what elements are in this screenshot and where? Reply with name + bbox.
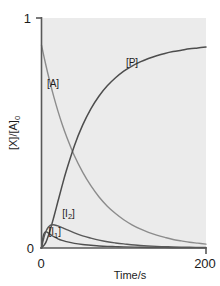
y-tick-label-max: 1 <box>24 11 31 26</box>
chart-svg: 1 0 0 200 Time/s [X]/[A]0 [A][P][I2][I1] <box>0 0 220 286</box>
y-axis-title-subscript: 0 <box>13 116 22 120</box>
chart-figure: 1 0 0 200 Time/s [X]/[A]0 [A][P][I2][I1] <box>0 0 220 286</box>
annotation-a: [A] <box>47 78 59 89</box>
annotation-p: [P] <box>126 57 138 68</box>
svg-text:[X]/[A]0: [X]/[A]0 <box>7 116 22 150</box>
x-tick-label-min: 0 <box>37 256 44 271</box>
x-axis-title: Time/s <box>114 269 147 281</box>
x-tick-label-max: 200 <box>194 256 216 271</box>
y-tick-label-min: 0 <box>27 241 34 256</box>
y-axis-title-base: [X]/[A] <box>7 120 19 150</box>
y-axis-title: [X]/[A]0 <box>7 116 22 150</box>
